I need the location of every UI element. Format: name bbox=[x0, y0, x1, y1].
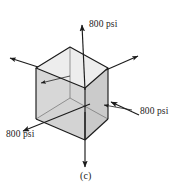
rear-right-corner-arrow bbox=[106, 56, 138, 70]
stress-element-figure bbox=[0, 0, 184, 194]
cube-body bbox=[36, 47, 108, 140]
label-top-stress: 800 psi bbox=[89, 19, 117, 29]
figure-caption: (c) bbox=[80, 170, 91, 181]
rear-left-corner-arrow bbox=[10, 58, 38, 67]
label-left-stress: 800 psi bbox=[6, 129, 34, 139]
label-right-stress: 800 psi bbox=[140, 106, 168, 116]
